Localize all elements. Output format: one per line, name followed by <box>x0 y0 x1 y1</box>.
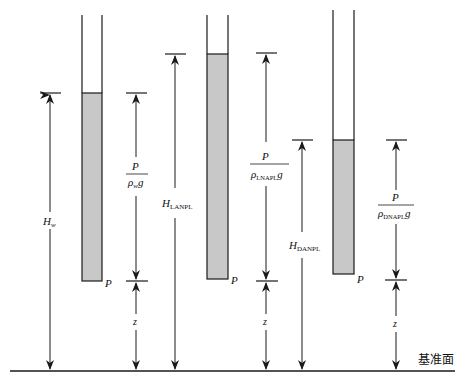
point-label-lnapl: P <box>230 274 238 286</box>
head-dimension-lnapl: HLANPL <box>161 54 193 370</box>
head-label-dnapl: HDANPL <box>288 239 320 253</box>
elevation-label-water: z <box>132 316 137 327</box>
pressure-dimension-dnapl: P ρDNAPLg z <box>377 140 414 370</box>
datum-label: 基准面 <box>418 353 454 367</box>
pressure-dimension-water: P ρwg z <box>126 93 148 370</box>
pressure-numerator-lnapl: P <box>261 150 269 162</box>
elevation-label-lnapl: z <box>262 316 267 327</box>
tube-water: P <box>82 15 112 289</box>
pressure-denominator-dnapl: ρDNAPLg <box>377 207 411 220</box>
fluid-column-dnapl <box>333 140 354 274</box>
pressure-dimension-lnapl: P ρLNAPLg z <box>250 53 289 370</box>
tube-dnapl: P <box>333 10 364 285</box>
point-label-dnapl: P <box>356 273 364 285</box>
pressure-denominator-water: ρwg <box>127 176 144 190</box>
fluid-column-lnapl <box>207 54 228 279</box>
head-label-water: Hw <box>42 215 56 229</box>
head-dimension-water: Hw <box>40 93 61 370</box>
head-dimension-dnapl: HDANPL <box>288 140 320 370</box>
pressure-numerator-water: P <box>131 160 139 172</box>
elevation-label-dnapl: z <box>392 318 397 329</box>
pressure-denominator-lnapl: ρLNAPLg <box>250 168 283 181</box>
fluid-column-water <box>82 93 102 281</box>
head-label-lnapl: HLANPL <box>161 197 193 211</box>
tube-lnapl: P <box>207 15 238 286</box>
pressure-numerator-dnapl: P <box>391 191 399 203</box>
point-label-water: P <box>104 277 112 289</box>
piezometer-diagram: 基准面 P Hw P ρwg z <box>0 0 462 384</box>
